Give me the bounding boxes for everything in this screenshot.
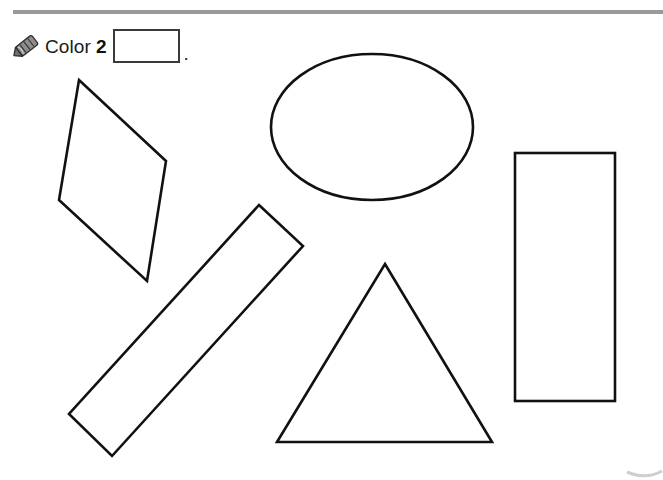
shape-triangle[interactable]	[277, 264, 492, 442]
shape-ellipse[interactable]	[271, 54, 473, 200]
shape-quadrilateral[interactable]	[59, 80, 166, 281]
page-corner-artifact	[627, 471, 662, 476]
shape-vertical-rectangle[interactable]	[515, 153, 615, 401]
worksheet-page: Color 2 .	[0, 0, 663, 480]
shapes-canvas	[0, 0, 663, 480]
